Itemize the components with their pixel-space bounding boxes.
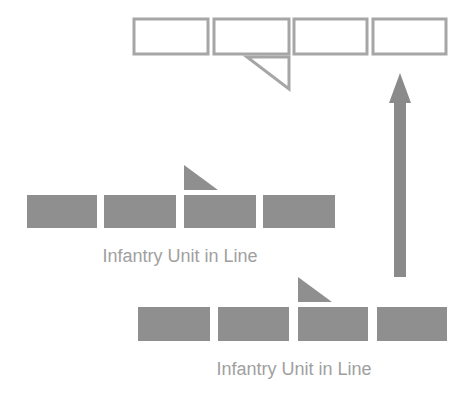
unit-block-2 <box>104 195 176 228</box>
unit-block-1 <box>138 307 210 341</box>
unit-block-3 <box>298 307 368 341</box>
unit-block-3 <box>294 19 367 54</box>
infantry-line-2-label: Infantry Unit in Line <box>216 359 371 379</box>
unit-flag-marker-icon <box>298 277 332 302</box>
unit-block-2 <box>214 19 289 54</box>
formation-diagram: Infantry Unit in Line Infantry Unit in L… <box>0 0 472 395</box>
advance-arrow-icon <box>389 73 411 277</box>
infantry-line-1-label: Infantry Unit in Line <box>102 246 257 266</box>
unit-block-1 <box>27 195 97 228</box>
unit-block-2 <box>218 307 289 341</box>
unit-block-3 <box>184 195 256 228</box>
unit-block-1 <box>134 19 208 54</box>
unit-flag-marker-icon <box>184 165 218 190</box>
unit-block-4 <box>377 307 447 341</box>
unit-block-4 <box>263 195 335 228</box>
arrow-head <box>389 73 411 103</box>
unit-block-4 <box>373 19 446 54</box>
unit-flag-marker-icon <box>247 57 289 89</box>
infantry-line-2-formation <box>138 277 447 341</box>
arrow-shaft <box>394 102 406 277</box>
infantry-line-1-formation <box>27 165 335 228</box>
